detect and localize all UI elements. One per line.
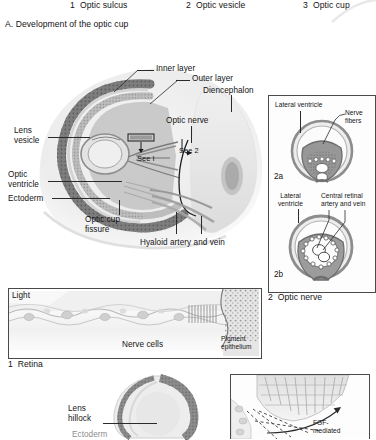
stage-label-1-text: Optic sulcus: [80, 1, 127, 11]
label-lens-hillock: Lens hillock: [68, 404, 91, 423]
leader-hyaloid-artery: [176, 212, 177, 234]
label-inner-layer: Inner layer: [156, 64, 195, 74]
optic-cup-illustration: [0, 36, 280, 251]
tag-2b: 2b: [274, 270, 283, 280]
lens-hillock-illustration: [100, 374, 210, 438]
label-outer-layer: Outer layer: [192, 74, 233, 84]
retina-panel-caption: 1 Retina: [8, 360, 43, 370]
label-optic-ventricle: Optic ventricle: [8, 170, 39, 189]
tag-2a: 2a: [274, 172, 283, 182]
fgf-panel: FGF- mediated: [230, 374, 370, 439]
label-see-1: See I: [137, 155, 155, 164]
label-nerve-cells: Nerve cells: [122, 340, 163, 350]
stage-label-3-number: 3: [303, 1, 308, 11]
label-diencephalon: Diencephalon: [203, 86, 254, 96]
leader-2a-lateral-ventricle: [300, 111, 301, 133]
label-see-2: See 2: [179, 147, 199, 156]
fgf-illustration: [231, 375, 367, 439]
leader-lens-vesicle: [48, 137, 90, 138]
leader-diencephalon: [231, 95, 232, 112]
retina-panel: Light Nerve cells Pigment epithelium: [8, 288, 262, 359]
optic-nerve-panel: Lateral ventricle Nerve fibers 2a: [268, 95, 376, 293]
label-optic-nerve: Optic nerve: [166, 116, 208, 126]
leader-hyaloid-vein: [201, 216, 202, 234]
leader-optic-nerve: [191, 126, 192, 143]
label-pigment-epithelium: Pigment epithelium: [221, 335, 252, 350]
section-title: A. Development of the optic cup: [5, 20, 128, 30]
label-hyaloid-artery-and-vein: Hyaloid artery and vein: [140, 238, 225, 248]
leader-ectoderm: [52, 198, 110, 199]
leader-inner-layer-angled: [112, 68, 140, 94]
label-lens-vesicle: Lens vesicle: [14, 126, 39, 145]
optic-nerve-panel-caption: 2 Optic nerve: [268, 293, 322, 303]
label-ectoderm: Ectoderm: [8, 194, 43, 204]
leader-2b-lateral-ventricle: [298, 209, 299, 223]
label-optic-cup-fissure: Optic cup fissure: [85, 215, 120, 234]
label-2b-lateral-ventricle: Lateral ventricle: [278, 192, 303, 207]
leader-2a-nerve-fibers: [321, 112, 347, 146]
label-lens-hillock-cut: Ectoderm: [72, 430, 107, 440]
leader-outer-layer-angled: [148, 78, 180, 106]
label-light: Light: [12, 291, 30, 301]
label-2a-nerve-fibers: Nerve fibers: [345, 109, 363, 124]
stage-label-2-number: 2: [186, 1, 191, 11]
stage-label-2-text: Optic vesicle: [196, 1, 245, 11]
leader-optic-cup-fissure: [119, 200, 120, 215]
label-2a-lateral-ventricle: Lateral ventricle: [275, 101, 322, 109]
leader-2b-central-retinal: [315, 208, 355, 252]
label-fgf: FGF- mediated: [313, 419, 341, 434]
leader-lens-hillock: [103, 423, 157, 424]
scan-artifact-arc: [330, 0, 376, 24]
stage-label-1-number: 1: [70, 1, 75, 11]
label-2b-central-retinal-artery-and-vein: Central retinal artery and vein: [321, 192, 365, 207]
leader-optic-ventricle: [48, 181, 122, 182]
